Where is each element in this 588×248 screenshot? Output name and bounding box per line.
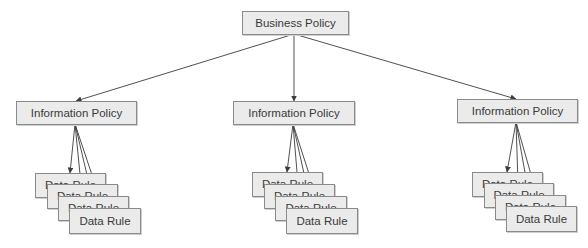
data-rule-node: Data Rule — [506, 206, 577, 232]
data-rule-label: Data Rule — [79, 215, 130, 227]
information-policy-node-middle: Information Policy — [233, 101, 355, 125]
information-policy-node-right: Information Policy — [457, 99, 578, 123]
business-policy-node: Business Policy — [242, 11, 349, 35]
arrow-root-to-left-policy — [76, 34, 294, 101]
information-policy-node-left: Information Policy — [16, 101, 137, 125]
arrow-root-to-right-policy — [294, 34, 516, 99]
data-rule-label: Data Rule — [516, 213, 567, 225]
data-rule-label: Data Rule — [296, 215, 347, 227]
data-rule-node: Data Rule — [69, 208, 141, 234]
information-policy-label: Information Policy — [31, 107, 122, 119]
information-policy-label: Information Policy — [472, 105, 563, 117]
policy-hierarchy-diagram: Business Policy Information Policy Data … — [0, 0, 588, 248]
business-policy-label: Business Policy — [255, 17, 336, 29]
information-policy-label: Information Policy — [248, 107, 339, 119]
data-rule-node: Data Rule — [286, 208, 358, 234]
